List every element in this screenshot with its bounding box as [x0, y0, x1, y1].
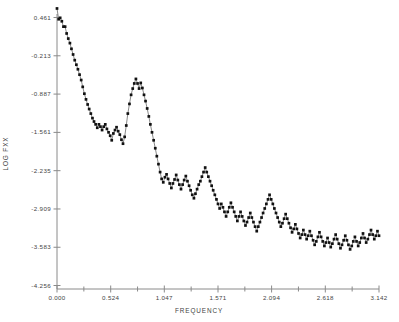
data-point-marker [297, 232, 300, 235]
data-point-marker [172, 182, 175, 185]
data-point-marker [75, 63, 78, 66]
data-point-marker [331, 242, 334, 245]
y-tick-label: -2.909 [0, 205, 51, 212]
data-point-marker [168, 182, 171, 185]
data-point-marker [291, 231, 294, 234]
data-point-marker [80, 79, 83, 82]
data-point-marker [144, 100, 147, 103]
data-point-marker [212, 189, 215, 192]
y-tick-label: -4.256 [0, 282, 51, 289]
data-point-marker [180, 188, 183, 191]
data-point-marker [317, 236, 320, 239]
data-point-marker [72, 53, 75, 56]
data-point-marker [130, 93, 133, 96]
data-point-marker [189, 189, 192, 192]
plot-canvas [0, 0, 399, 322]
data-point-marker [236, 220, 239, 223]
data-point-marker [308, 230, 311, 233]
data-point-marker [358, 241, 361, 244]
y-tick-label: 0.461 [0, 14, 51, 21]
data-point-marker [312, 239, 315, 242]
data-point-marker [104, 123, 107, 126]
data-point-marker [360, 237, 363, 240]
data-point-marker [238, 215, 241, 218]
data-point-marker [60, 20, 63, 23]
data-point-marker [83, 92, 86, 95]
data-point-marker [228, 206, 231, 209]
data-point-marker [239, 211, 242, 214]
data-point-marker [67, 37, 70, 40]
data-markers [56, 7, 381, 251]
data-point-marker [152, 139, 155, 142]
data-point-marker [181, 183, 184, 186]
data-point-marker [254, 225, 257, 228]
data-point-marker [107, 131, 110, 134]
x-tick-label: 1.571 [198, 294, 238, 301]
data-point-marker [305, 238, 308, 241]
data-point-marker [276, 216, 279, 219]
data-point-marker [167, 178, 170, 181]
data-point-marker [197, 183, 200, 186]
data-point-marker [65, 32, 68, 35]
data-point-marker [354, 236, 357, 239]
data-point-marker [255, 230, 258, 233]
data-point-marker [193, 197, 196, 200]
data-point-marker [70, 47, 73, 50]
data-point-marker [307, 234, 310, 237]
data-point-marker [242, 220, 245, 223]
data-point-marker [296, 228, 299, 231]
data-point-marker [215, 198, 218, 201]
series-polyline [57, 8, 379, 249]
data-point-marker [155, 155, 158, 158]
data-point-marker [247, 216, 250, 219]
data-point-marker [300, 233, 303, 236]
data-point-marker [267, 198, 270, 201]
data-point-marker [279, 225, 282, 228]
data-point-marker [184, 175, 187, 178]
data-point-marker [334, 233, 337, 236]
data-point-marker [336, 238, 339, 241]
data-point-marker [165, 173, 168, 176]
data-point-marker [376, 230, 379, 233]
data-point-marker [281, 222, 284, 225]
data-point-marker [288, 222, 291, 225]
data-point-marker [278, 221, 281, 224]
data-point-marker [210, 184, 213, 187]
data-point-marker [273, 207, 276, 210]
data-point-marker [302, 229, 305, 232]
data-point-marker [257, 225, 260, 228]
data-point-marker [223, 211, 226, 214]
x-tick-label: 2.094 [252, 294, 292, 301]
data-point-marker [120, 138, 123, 141]
x-tick-label: 0.524 [91, 294, 131, 301]
data-point-marker [370, 229, 373, 232]
data-point-marker [191, 193, 194, 196]
data-point-marker [149, 123, 152, 126]
data-point-marker [77, 68, 80, 71]
x-axis-title: FREQUENCY [175, 307, 223, 314]
data-point-marker [141, 87, 144, 90]
data-point-marker [349, 248, 352, 251]
data-point-marker [160, 178, 163, 181]
data-point-marker [94, 123, 97, 126]
data-point-marker [325, 241, 328, 244]
data-point-marker [59, 16, 62, 19]
data-point-marker [275, 212, 278, 215]
data-point-marker [147, 115, 150, 118]
data-point-marker [115, 126, 118, 129]
data-point-marker [88, 108, 91, 111]
data-point-marker [362, 232, 365, 235]
data-point-marker [318, 231, 321, 234]
data-point-marker [304, 233, 307, 236]
data-point-marker [205, 171, 208, 174]
data-point-marker [139, 82, 142, 85]
data-point-marker [89, 112, 92, 115]
data-point-marker [292, 228, 295, 231]
data-point-marker [373, 238, 376, 241]
data-point-marker [183, 179, 186, 182]
data-point-marker [96, 126, 99, 129]
data-point-marker [126, 112, 129, 115]
data-point-marker [355, 240, 358, 243]
data-point-marker [209, 180, 212, 183]
data-point-marker [128, 103, 131, 106]
